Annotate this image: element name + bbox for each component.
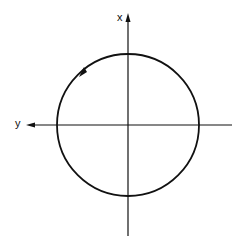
- x-axis-arrow-icon: [126, 13, 131, 22]
- diagram-canvas: [0, 0, 241, 244]
- y-axis-label: y: [15, 118, 21, 129]
- x-axis-label: x: [117, 12, 123, 23]
- y-axis-arrow-icon: [26, 123, 35, 128]
